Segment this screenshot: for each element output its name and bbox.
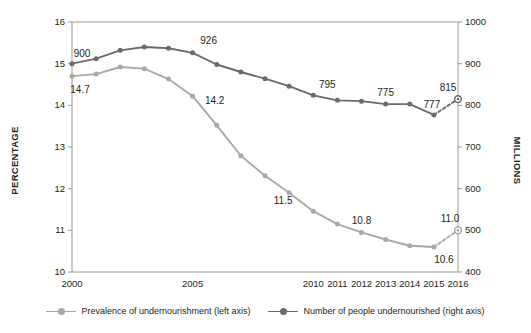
y-axis-right-tick-600: 600 [465, 183, 495, 194]
y-axis-right-tick-700: 700 [465, 141, 495, 152]
y-axis-left-tick-12: 12 [39, 183, 65, 194]
data-label-11.5: 11.5 [263, 195, 303, 206]
x-axis-tick-2000: 2000 [52, 278, 92, 289]
legend-swatch-icon [268, 307, 298, 316]
legend-item-prevalence[interactable]: Prevalence of undernourishment (left axi… [46, 306, 250, 316]
data-label-795: 795 [307, 79, 347, 90]
y-axis-left-tick-14: 14 [39, 99, 65, 110]
y-axis-right-tick-400: 400 [465, 266, 495, 277]
y-axis-left-tick-11: 11 [39, 224, 65, 235]
data-label-11.0: 11.0 [430, 213, 470, 224]
x-axis-tick-2005: 2005 [173, 278, 213, 289]
data-label-10.8: 10.8 [342, 215, 382, 226]
y-axis-left-tick-10: 10 [39, 266, 65, 277]
data-label-14.7: 14.7 [60, 84, 100, 95]
y-axis-right-tick-900: 900 [465, 58, 495, 69]
chart-legend: Prevalence of undernourishment (left axi… [0, 306, 531, 316]
y-axis-right-tick-1000: 1000 [465, 16, 495, 27]
legend-swatch-icon [46, 307, 76, 316]
y-axis-left-tick-15: 15 [39, 58, 65, 69]
data-label-815: 815 [428, 82, 468, 93]
data-label-777: 777 [412, 99, 452, 110]
y-axis-right-tick-500: 500 [465, 224, 495, 235]
undernourishment-dual-axis-chart: PERCENTAGE MILLIONS 10111213141516400500… [0, 0, 531, 333]
y-axis-right-tick-800: 800 [465, 99, 495, 110]
legend-item-number[interactable]: Number of people undernourished (right a… [268, 306, 484, 316]
data-label-775: 775 [366, 87, 406, 98]
data-label-926: 926 [189, 35, 229, 46]
data-label-10.6: 10.6 [424, 254, 464, 265]
data-label-900: 900 [62, 48, 102, 59]
y-axis-left-tick-16: 16 [39, 16, 65, 27]
legend-label: Number of people undernourished (right a… [303, 306, 484, 316]
data-label-14.2: 14.2 [195, 95, 235, 106]
y-axis-left-tick-13: 13 [39, 141, 65, 152]
x-axis-tick-2016: 2016 [438, 278, 478, 289]
chart-labels-overlay: 1011121314151640050060070080090010002000… [0, 0, 531, 333]
legend-label: Prevalence of undernourishment (left axi… [81, 306, 250, 316]
